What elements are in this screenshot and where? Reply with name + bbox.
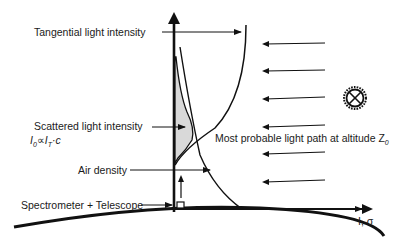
instrument-label: Spectrometer + Telescope — [21, 199, 143, 211]
y-axis-arrowhead — [168, 12, 180, 24]
light-path-text: Most probable light path at altitude Z — [215, 132, 385, 144]
light-path-label: Most probable light path at altitude Z0 — [215, 132, 389, 149]
earth-surface — [14, 207, 384, 236]
telescope-box-icon — [177, 202, 184, 208]
formula-proportional: ∝ — [37, 134, 45, 146]
air-density-label: Air density — [78, 164, 127, 176]
sun-icon — [344, 87, 366, 109]
sunlight-arrows — [265, 43, 325, 182]
tangential-light-label: Tangential light intensity — [34, 26, 146, 38]
light-path-subscript: 0 — [385, 139, 389, 146]
scattered-light-label: Scattered light intensity — [34, 120, 143, 132]
scattered-light-formula: I0∝IT·c — [30, 134, 61, 151]
formula-c: ·c — [52, 134, 61, 146]
x-axis-label: I, σ — [358, 215, 373, 227]
